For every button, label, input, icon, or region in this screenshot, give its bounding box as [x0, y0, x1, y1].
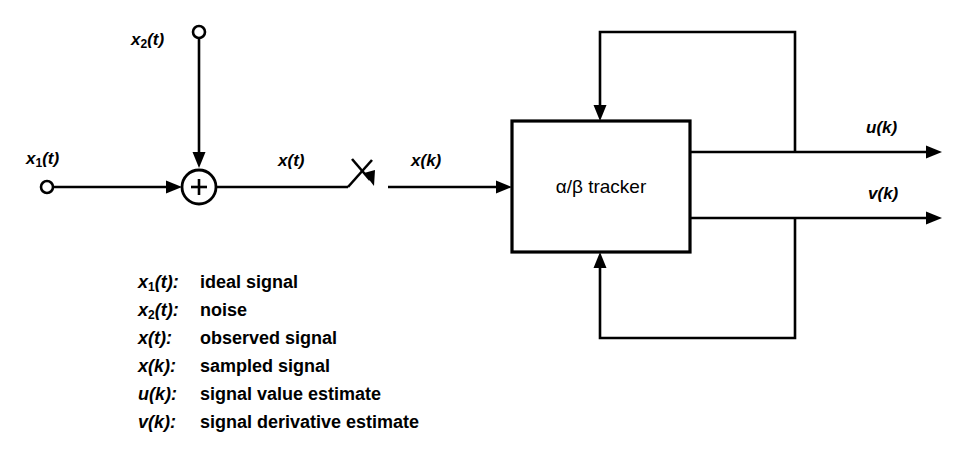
x2-input-terminal-icon [193, 26, 205, 38]
label-x2t: x2(t) [131, 31, 164, 50]
label-xt: x(t) [278, 152, 304, 169]
arrowhead-x1-into-sum-icon [166, 181, 182, 194]
legend-row: x(k): sampled signal [138, 352, 558, 380]
legend-description: sampled signal [200, 352, 330, 380]
legend-row: x(t): observed signal [138, 324, 558, 352]
arrowhead-feedback-bottom-icon [594, 252, 607, 268]
sampler-switch-arrowhead-icon [364, 170, 375, 186]
legend-row: x2(t): noise [138, 296, 558, 324]
arrowhead-xk-into-tracker-icon [496, 181, 512, 194]
legend-symbol: v(k): [138, 408, 176, 441]
legend-row: x1(t): ideal signal [138, 268, 558, 296]
legend-description: signal value estimate [200, 380, 381, 408]
arrowhead-feedback-top-icon [594, 105, 607, 121]
x1-input-terminal-icon [41, 181, 53, 193]
legend-row: v(k): signal derivative estimate [138, 408, 558, 436]
legend: x1(t): ideal signal x2(t): noise x(t): o… [138, 268, 558, 436]
legend-description: ideal signal [200, 268, 298, 296]
tracker-block-label: α/β tracker [512, 177, 690, 196]
arrowhead-uk-output-icon [926, 146, 942, 159]
arrowhead-vk-output-icon [926, 212, 942, 225]
label-vk: v(k) [868, 185, 898, 202]
label-uk: u(k) [866, 119, 897, 136]
legend-description: noise [200, 296, 247, 324]
label-xk: x(k) [411, 152, 441, 169]
block-diagram: x2(t) x1(t) x(t) x(k) u(k) v(k) α/β trac… [0, 0, 970, 470]
legend-description: signal derivative estimate [200, 408, 419, 436]
label-x1t: x1(t) [26, 150, 59, 169]
arrowhead-x2-into-sum-icon [193, 152, 206, 168]
legend-row: u(k): signal value estimate [138, 380, 558, 408]
legend-description: observed signal [200, 324, 337, 352]
